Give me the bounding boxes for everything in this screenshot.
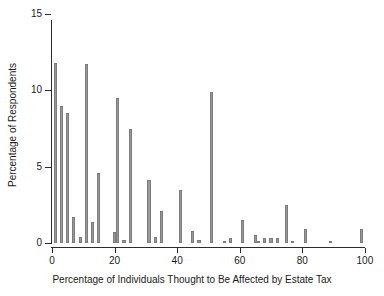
histogram-bar (304, 229, 307, 244)
x-tick-label: 20 (95, 255, 135, 266)
histogram-bar (129, 129, 132, 244)
histogram-bar (269, 238, 272, 243)
histogram-bar (360, 229, 363, 243)
histogram-figure: 051015 020406080100 Percentage of Indivi… (0, 0, 384, 296)
y-tick-label: 0 (2, 238, 42, 248)
histogram-bar (276, 238, 279, 243)
plot-area (52, 14, 368, 243)
histogram-bar (223, 241, 226, 243)
y-axis-title: Percentage of Respondents (7, 25, 19, 225)
histogram-bar (85, 64, 88, 243)
y-tick-label: 15 (2, 9, 42, 19)
histogram-bar (79, 237, 82, 243)
y-tick-mark (45, 167, 51, 168)
histogram-bar (210, 92, 213, 243)
histogram-bar (179, 190, 182, 243)
x-tick-label: 100 (345, 255, 384, 266)
x-axis-line (51, 247, 365, 248)
histogram-bar (241, 220, 244, 243)
y-tick-mark (45, 243, 51, 244)
histogram-bar (147, 180, 150, 243)
histogram-bar (229, 238, 232, 243)
x-tick-mark (240, 248, 241, 253)
histogram-bar (285, 205, 288, 243)
histogram-bar (329, 241, 332, 243)
histogram-bar (263, 238, 266, 243)
histogram-bar (160, 211, 163, 243)
histogram-bar (154, 237, 157, 243)
x-axis-title: Percentage of Individuals Thought to Be … (0, 274, 384, 286)
x-tick-mark (365, 248, 366, 253)
histogram-bar (66, 113, 69, 243)
x-tick-mark (177, 248, 178, 253)
x-tick-mark (52, 248, 53, 253)
x-tick-mark (115, 248, 116, 253)
histogram-bar (91, 222, 94, 243)
histogram-bar (197, 240, 200, 243)
histogram-bar (72, 217, 75, 243)
histogram-bar (116, 98, 119, 243)
y-axis-line (51, 20, 52, 244)
histogram-bar (257, 241, 260, 243)
histogram-bar (122, 240, 125, 243)
histogram-bar (97, 173, 100, 243)
y-tick-mark (45, 14, 51, 15)
y-tick-mark (45, 90, 51, 91)
histogram-bar (291, 241, 294, 243)
x-tick-mark (302, 248, 303, 253)
x-tick-label: 60 (220, 255, 260, 266)
x-tick-label: 80 (282, 255, 322, 266)
histogram-bar (191, 231, 194, 243)
histogram-bar (60, 106, 63, 243)
histogram-bar (54, 63, 57, 243)
x-tick-label: 40 (157, 255, 197, 266)
x-tick-label: 0 (32, 255, 72, 266)
